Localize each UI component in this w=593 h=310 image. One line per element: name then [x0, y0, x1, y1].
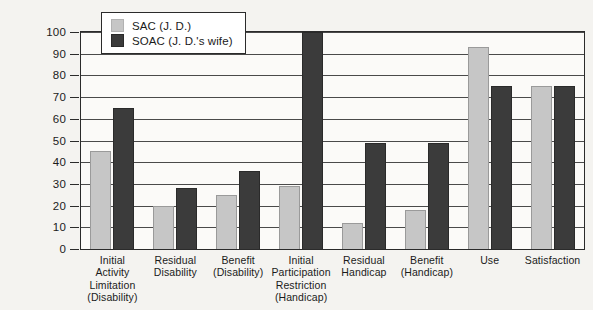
y-axis-tick-label: 80 [53, 69, 66, 81]
x-axis-label: ResidualDisability [144, 254, 207, 304]
bar-sac [342, 223, 363, 249]
x-axis-label-line: (Handicap) [396, 266, 457, 278]
bar-group [81, 32, 144, 249]
y-axis-tick-mark [70, 97, 79, 98]
y-axis-tick-mark [70, 54, 79, 55]
bar-sac [279, 186, 300, 249]
y-axis-tick-label: 10 [53, 221, 66, 233]
x-axis-label-line: Benefit [396, 254, 457, 266]
bar-group [207, 32, 270, 249]
y-axis-tick-mark [70, 227, 79, 228]
y-axis-tick-label: 90 [53, 48, 66, 60]
bar-soac [239, 171, 260, 249]
bar-group [333, 32, 396, 249]
x-axis-label-line: Initial [271, 254, 332, 266]
bar-soac [428, 143, 449, 249]
legend-label: SOAC (J. D.'s wife) [132, 35, 233, 47]
x-axis-label-line: Residual [145, 254, 206, 266]
y-axis-tick-mark [70, 32, 79, 33]
x-axis-label-line: Activity [82, 266, 143, 278]
y-axis-tick-mark [70, 162, 79, 163]
y-axis-tick-mark [70, 119, 79, 120]
x-axis-label-line: Limitation [82, 279, 143, 291]
x-axis-labels: InitialActivityLimitation(Disability)Res… [81, 254, 584, 304]
chart-page: 0102030405060708090100 InitialActivityLi… [0, 0, 593, 310]
bar-sac [153, 206, 174, 249]
bar-sac [531, 86, 552, 249]
y-axis-tick-label: 100 [46, 26, 66, 38]
y-axis-tick-label: 50 [53, 135, 66, 147]
legend-entry: SOAC (J. D.'s wife) [111, 33, 233, 48]
y-axis-tick-mark [70, 184, 79, 185]
legend-entry: SAC (J. D.) [111, 18, 233, 33]
bar-group [395, 32, 458, 249]
bar-group [270, 32, 333, 249]
bar-soac [302, 32, 323, 249]
chart-legend: SAC (J. D.)SOAC (J. D.'s wife) [101, 12, 246, 54]
gridline [81, 249, 584, 250]
y-axis-tick-mark [70, 141, 79, 142]
bar-soac [113, 108, 134, 249]
legend-swatch-icon [111, 34, 124, 47]
x-axis-label-line: Satisfaction [522, 254, 583, 266]
y-axis: 0102030405060708090100 [0, 31, 80, 250]
x-axis-label: Benefit(Disability) [207, 254, 270, 304]
x-axis-label: InitialActivityLimitation(Disability) [81, 254, 144, 304]
y-axis-tick-mark [70, 249, 79, 250]
x-axis-label-line: (Disability) [208, 266, 269, 278]
x-axis-label-line: Initial [82, 254, 143, 266]
y-axis-tick-label: 70 [53, 91, 66, 103]
y-axis-tick-mark [70, 206, 79, 207]
x-axis-label: Satisfaction [521, 254, 584, 304]
bar-sac [90, 151, 111, 249]
y-axis-tick-label: 30 [53, 178, 66, 190]
legend-swatch-icon [111, 19, 124, 32]
bar-soac [491, 86, 512, 249]
x-axis-label-line: Restriction [271, 279, 332, 291]
bar-soac [365, 143, 386, 249]
bar-soac [176, 188, 197, 249]
bar-groups [81, 32, 584, 249]
x-axis-label-line: (Handicap) [271, 291, 332, 303]
bar-sac [405, 210, 426, 249]
x-axis-label-line: Use [459, 254, 520, 266]
y-axis-tick-label: 0 [59, 243, 66, 255]
x-axis-label: InitialParticipationRestriction(Handicap… [270, 254, 333, 304]
legend-label: SAC (J. D.) [132, 20, 191, 32]
x-axis-label-line: Participation [271, 266, 332, 278]
x-axis-label: ResidualHandicap [333, 254, 396, 304]
x-axis-label-line: Disability [145, 266, 206, 278]
bar-sac [468, 47, 489, 249]
x-axis-label-line: Residual [334, 254, 395, 266]
bar-sac [216, 195, 237, 249]
x-axis-label-line: Handicap [334, 266, 395, 278]
y-axis-tick-mark [70, 75, 79, 76]
x-axis-label: Use [458, 254, 521, 304]
bar-group [144, 32, 207, 249]
x-axis-label: Benefit(Handicap) [395, 254, 458, 304]
bar-soac [554, 86, 575, 249]
y-axis-tick-label: 60 [53, 113, 66, 125]
bar-group [458, 32, 521, 249]
x-axis-label-line: (Disability) [82, 291, 143, 303]
y-axis-tick-label: 40 [53, 156, 66, 168]
x-axis-label-line: Benefit [208, 254, 269, 266]
y-axis-tick-label: 20 [53, 200, 66, 212]
bar-group [521, 32, 584, 249]
